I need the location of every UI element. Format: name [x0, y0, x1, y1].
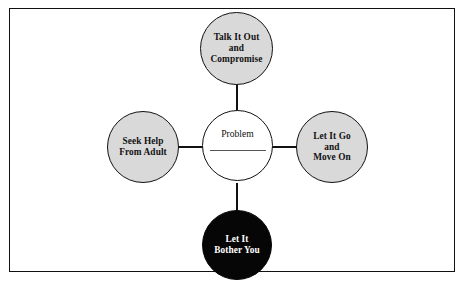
diagram-canvas: Talk It Out and Compromise Seek Help Fro…	[0, 0, 467, 290]
node-let-it-bother-you[interactable]: Let It Bother You	[202, 210, 272, 280]
connector-center-to-bottom	[236, 183, 238, 211]
node-let-it-go[interactable]: Let It Go and Move On	[296, 111, 368, 183]
node-seek-help[interactable]: Seek Help From Adult	[107, 111, 179, 183]
connector-center-to-right	[271, 146, 297, 148]
connector-center-to-left	[178, 146, 204, 148]
node-problem-center[interactable]: Problem	[202, 110, 273, 181]
node-talk-it-out[interactable]: Talk It Out and Compromise	[200, 12, 273, 85]
connector-center-to-top	[236, 82, 238, 111]
node-talk-it-out-label: Talk It Out and Compromise	[207, 32, 267, 64]
problem-blank-line	[210, 150, 266, 151]
node-seek-help-label: Seek Help From Adult	[115, 136, 171, 158]
node-let-it-bother-you-label: Let It Bother You	[210, 234, 264, 256]
node-problem-label: Problem	[217, 128, 258, 139]
node-let-it-go-label: Let It Go and Move On	[309, 131, 355, 163]
